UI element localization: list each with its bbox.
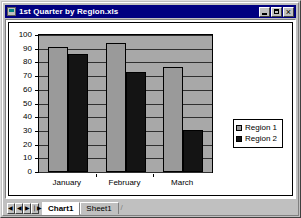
sheet-nav-buttons: ◀❘◀▶❘▶ [5,202,40,215]
bar-region-2-january[interactable] [68,54,88,172]
minimize-button[interactable] [259,7,270,17]
legend-item[interactable]: Region 2 [236,133,279,144]
y-axis-tick-label: 10 [23,154,32,162]
y-axis-tick-label: 40 [23,113,32,121]
x-axis: JanuaryFebruaryMarch [38,176,213,188]
maximize-button[interactable] [271,7,282,17]
nav-glyph: ◀ [16,204,22,213]
first-sheet-icon[interactable]: ◀❘ [7,203,15,214]
x-axis-tick-label: January [53,178,81,188]
title-bar[interactable]: 1st Quarter by Region.xls [5,5,296,18]
plot-area[interactable] [38,34,213,173]
legend-item[interactable]: Region 1 [236,122,279,133]
bar-region-2-march[interactable] [183,130,203,172]
next-sheet-icon[interactable]: ▶ [23,203,31,214]
window-title: 1st Quarter by Region.xls [19,6,258,17]
nav-glyph: ▶ [24,204,30,213]
legend-label: Region 2 [245,134,277,143]
x-axis-tick-label: March [171,178,193,188]
bar-region-1-march[interactable] [163,67,183,172]
legend-label: Region 1 [245,123,277,132]
last-sheet-icon[interactable]: ❘▶ [31,203,39,214]
prev-sheet-icon[interactable]: ◀ [15,203,23,214]
y-axis-tick-label: 20 [23,141,32,149]
gridline [39,172,212,173]
close-button[interactable] [283,7,294,17]
x-axis-tick [96,174,97,177]
sheet-tab-bar: ◀❘◀▶❘▶ Chart1Sheet1/ [5,202,296,216]
sheet-tabs: Chart1Sheet1/ [42,202,296,215]
chart-legend[interactable]: Region 1Region 2 [233,119,283,148]
y-axis-tick-label: 100 [19,31,32,39]
tab-end-separator: / [119,202,125,214]
y-axis-tick-label: 60 [23,86,32,94]
nav-glyph: ❘▶ [32,204,38,213]
y-axis-tick-label: 0 [28,168,32,176]
excel-workbook-icon [7,7,16,16]
y-axis-tick-label: 30 [23,127,32,135]
bar-region-2-february[interactable] [126,72,146,172]
y-axis-tick-label: 50 [23,100,32,108]
y-axis: 0102030405060708090100 [9,34,35,173]
y-axis-tick-label: 70 [23,72,32,80]
bar-region-1-january[interactable] [48,47,68,172]
nav-glyph: ◀❘ [8,204,14,213]
sheet-tab-chart1[interactable]: Chart1 [42,202,80,215]
window-inner-frame: 1st Quarter by Region.xls 01020304050607… [2,2,299,216]
y-axis-tick-label: 80 [23,58,32,66]
chart-object[interactable]: 0102030405060708090100 JanuaryFebruaryMa… [8,22,293,196]
x-axis-tick [153,174,154,177]
legend-swatch-icon [236,125,242,131]
sheet-tab-sheet1[interactable]: Sheet1 [80,202,118,214]
y-axis-tick-label: 90 [23,45,32,53]
excel-window: 1st Quarter by Region.xls 01020304050607… [0,0,301,218]
x-axis-tick-label: February [108,178,140,188]
bars-layer [39,35,212,172]
chart-sheet-canvas[interactable]: 0102030405060708090100 JanuaryFebruaryMa… [5,19,296,199]
legend-swatch-icon [236,136,242,142]
bar-region-1-february[interactable] [106,43,126,172]
